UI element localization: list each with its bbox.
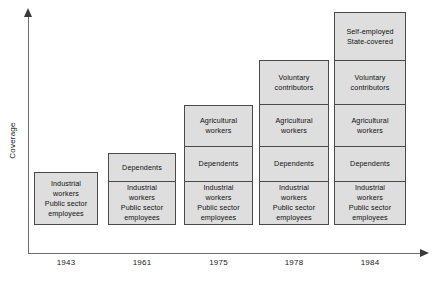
bar-segment-label: Industrial — [51, 179, 81, 189]
bar-segment: IndustrialworkersPublic sectoremployees — [108, 181, 176, 225]
bar-segment-label: workers — [281, 126, 307, 136]
bar-segment-label: employees — [201, 213, 237, 223]
bar-segment-label: Agricultural — [275, 116, 312, 126]
bar-1975: AgriculturalworkersDependentsIndustrialw… — [184, 106, 253, 225]
bar-segment: Dependents — [108, 153, 176, 182]
bar-segment-label: contributors — [351, 83, 390, 93]
bar-segment-label: workers — [281, 193, 307, 203]
bar-segment-label: contributors — [275, 83, 314, 93]
bar-segment: Voluntarycontributors — [259, 60, 329, 105]
bar-segment-label: Public sector — [197, 203, 239, 213]
bar-segment: Agriculturalworkers — [334, 104, 406, 147]
bar-segment-label: Public sector — [121, 203, 163, 213]
bar-segment-label: State-covered — [347, 37, 393, 47]
bar-segment: Dependents — [259, 146, 329, 182]
bar-segment-label: Public sector — [349, 203, 391, 213]
x-tick-label-1961: 1961 — [108, 258, 176, 267]
bar-segment-label: Dependents — [350, 159, 390, 169]
bar-segment-label: Voluntary — [279, 73, 310, 83]
bar-segment: Agriculturalworkers — [259, 104, 329, 147]
bar-1984: Self-employedState-coveredVoluntarycontr… — [334, 13, 406, 225]
bar-1961: DependentsIndustrialworkersPublic sector… — [108, 154, 176, 225]
bar-segment-label: workers — [206, 126, 232, 136]
bar-segment: IndustrialworkersPublic sectoremployees — [259, 181, 329, 225]
bar-segment-label: workers — [357, 193, 383, 203]
bar-segment-label: employees — [352, 213, 388, 223]
x-tick-label-1978: 1978 — [259, 258, 329, 267]
bar-1943: IndustrialworkersPublic sectoremployees — [34, 173, 98, 225]
bar-segment-label: workers — [53, 189, 79, 199]
bar-segment-label: Public sector — [273, 203, 315, 213]
x-tick-label-1975: 1975 — [184, 258, 253, 267]
bar-segment-label: Voluntary — [355, 73, 386, 83]
stacked-bar-chart: Coverage IndustrialworkersPublic sectore… — [0, 0, 434, 281]
bar-segment: IndustrialworkersPublic sectoremployees — [34, 172, 98, 225]
bar-segment-label: Dependents — [199, 159, 239, 169]
x-tick-label-1943: 1943 — [34, 258, 98, 267]
bar-segment-label: workers — [129, 193, 155, 203]
bar-segment: Dependents — [184, 146, 253, 182]
bar-segment-label: employees — [124, 213, 160, 223]
bar-segment-label: Dependents — [122, 163, 162, 173]
bar-1978: VoluntarycontributorsAgriculturalworkers… — [259, 61, 329, 225]
bar-segment-label: Industrial — [355, 183, 385, 193]
bar-segment: Dependents — [334, 146, 406, 182]
bar-segment-label: Dependents — [274, 159, 314, 169]
bar-segment: IndustrialworkersPublic sectoremployees — [334, 181, 406, 225]
bar-segment: Agriculturalworkers — [184, 105, 253, 147]
bar-segment: IndustrialworkersPublic sectoremployees — [184, 181, 253, 225]
bar-segment-label: workers — [357, 126, 383, 136]
bar-segment-label: Agricultural — [200, 116, 237, 126]
bar-segment: Self-employedState-covered — [334, 12, 406, 61]
bar-segment-label: employees — [48, 209, 84, 219]
bar-segment-label: workers — [206, 193, 232, 203]
bar-segment-label: Self-employed — [346, 27, 393, 37]
x-tick-label-1984: 1984 — [334, 258, 406, 267]
bar-segment-label: Public sector — [45, 199, 87, 209]
bar-segment-label: Industrial — [127, 183, 157, 193]
bar-segment-label: employees — [276, 213, 312, 223]
bar-segment-label: Agricultural — [351, 116, 388, 126]
bar-segment: Voluntarycontributors — [334, 60, 406, 105]
bar-segment-label: Industrial — [279, 183, 309, 193]
plot-area: IndustrialworkersPublic sectoremployeesD… — [0, 0, 434, 253]
bar-segment-label: Industrial — [203, 183, 233, 193]
x-axis-line — [28, 253, 421, 254]
